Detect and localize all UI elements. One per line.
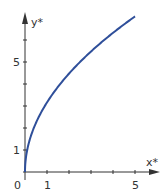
- chart: 0 1 5 1 5 x* y*: [0, 0, 164, 196]
- y-axis-label: y*: [31, 16, 44, 29]
- y-tick-label-5: 5: [13, 56, 20, 69]
- origin-label: 0: [14, 179, 21, 192]
- x-tick-label-1: 1: [44, 179, 51, 192]
- axes: [22, 12, 160, 180]
- x-tick-label-5: 5: [132, 179, 139, 192]
- data-curve: [25, 16, 135, 172]
- x-axis-label: x*: [146, 156, 159, 169]
- x-axis-arrow-icon: [149, 169, 160, 175]
- y-tick-label-1: 1: [13, 144, 20, 157]
- y-axis-arrow-icon: [22, 12, 28, 24]
